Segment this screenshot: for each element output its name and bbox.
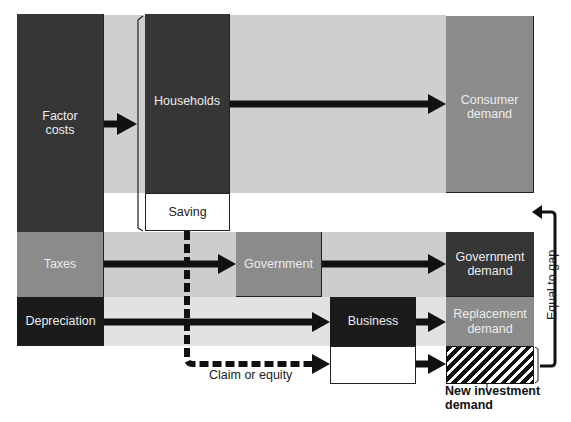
arrow-depreciation-to-business	[104, 312, 330, 332]
arrow-factor-to-households	[104, 113, 137, 135]
dashed-arrow-saving-to-business	[187, 231, 330, 374]
equal-to-gap-bracket-arrow	[532, 205, 555, 383]
arrow-business-to-replacement	[416, 312, 446, 332]
households-bracket	[138, 16, 143, 231]
arrow-business-to-new-investment	[416, 354, 446, 374]
arrow-households-to-consumer	[230, 94, 446, 114]
arrow-government-to-govdemand	[322, 254, 446, 274]
arrow-taxes-to-government	[104, 254, 236, 274]
flow-arrows	[0, 0, 571, 422]
